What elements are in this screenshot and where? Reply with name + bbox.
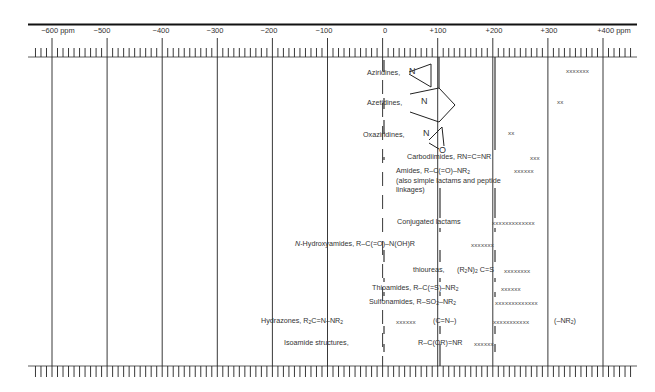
thioamides-range: xxxxxx xyxy=(501,284,521,293)
azetidines-range: xx xyxy=(557,97,564,106)
thioureas-label: thioureas, xyxy=(413,265,445,274)
oxaziridines-n: N xyxy=(423,129,430,138)
conjugated-lactams-label: Conjugated lactams xyxy=(397,217,461,226)
hydrazones-label: Hydrazones, R2C=N–NR2 xyxy=(261,316,343,327)
formula-part: C=S xyxy=(480,265,494,274)
aziridines-n: N xyxy=(409,67,416,76)
tick-label: +300 xyxy=(541,26,558,35)
hydroxyamides-label: N-Hydroxyamides, R–C(=O)–N(OH)R xyxy=(295,239,415,248)
subscript: 2 xyxy=(456,286,459,292)
conjugated-lactams-range: xxxxxxxxxxxxx xyxy=(492,218,535,227)
thioureas-range: xxxxxxxx xyxy=(504,266,530,275)
formula-part: Sulfonamides, R–SO xyxy=(369,297,436,306)
azetidines-label: Azetidines, xyxy=(367,98,402,107)
amides-note-line2: (also simple lactams and peptide xyxy=(396,176,501,185)
bottom-minor-ticks xyxy=(35,366,630,377)
tick-label: 0 xyxy=(383,26,387,35)
tick-label: −400 xyxy=(153,26,170,35)
azetidines-n: N xyxy=(421,97,428,106)
tick-label: +400 ppm xyxy=(597,26,631,35)
formula-part: (R xyxy=(457,265,465,274)
isoamides-label: Isoamide structures, xyxy=(284,338,349,347)
hydrazones-nr2-range: xxxxxxxxxxx xyxy=(493,317,529,326)
oxaziridines-range: xx xyxy=(508,128,515,137)
aziridines-range: xxxxxxx xyxy=(566,66,589,75)
formula-part: (–NR xyxy=(554,316,571,325)
amides-note-line3: linkages) xyxy=(396,185,425,194)
formula-part: N) xyxy=(467,265,475,274)
tick-label: −500 xyxy=(94,26,111,35)
top-minor-ticks xyxy=(35,38,630,57)
hydrazones-cn-label: (C=N–) xyxy=(433,316,456,325)
tick-label: +200 xyxy=(486,26,503,35)
sulfonamides-label: Sulfonamides, R–SO2–NR2 xyxy=(369,297,456,308)
formula-part: –NR xyxy=(439,297,453,306)
oxaziridines-label: Oxaziridines, xyxy=(363,130,405,139)
ppm-scale-diagram xyxy=(0,0,655,392)
subscript: 2 xyxy=(475,268,478,274)
carbodiimides-range: xxx xyxy=(530,153,540,162)
aziridines-label: Aziridines, xyxy=(367,68,400,77)
azetidine-structure-icon xyxy=(410,88,455,122)
formula-part: Hydrazones, R xyxy=(261,316,309,325)
subscript: 2 xyxy=(467,169,470,175)
amides-range: xxxxxx xyxy=(514,166,534,175)
thioamides-label: Thioamides, R–C(=S)–NR2 xyxy=(372,283,458,294)
subscript: 2 xyxy=(453,300,456,306)
tick-label: −300 xyxy=(207,26,224,35)
carbodiimides-label: Carbodiimides, RN=C=NR xyxy=(407,152,491,161)
subscript: 2 xyxy=(340,319,343,325)
thioureas-formula: (R2N)2 C=S xyxy=(457,265,494,276)
tick-label: −100 xyxy=(316,26,333,35)
tick-label: −200 xyxy=(261,26,278,35)
tick-label: −600 ppm xyxy=(41,26,75,35)
sulfonamides-range: xxxxxxxxxxxxx xyxy=(495,298,538,307)
formula-part: ) xyxy=(574,316,576,325)
hydroxyamides-range: xxxxxxx xyxy=(471,240,494,249)
hydroxyamides-text: -Hydroxyamides, R–C(=O)–N(OH)R xyxy=(300,239,415,248)
isoamides-formula: R–C(OR)=NR xyxy=(418,338,463,347)
amides-formula: Amides, R–C(=O)–NR xyxy=(396,166,467,175)
hydrazones-cn-range: xxxxxx xyxy=(396,317,416,326)
hydrazones-nr2-label: (–NR2) xyxy=(554,316,576,327)
isoamides-range: xxxxxx xyxy=(474,339,494,348)
formula-part: C=N–NR xyxy=(311,316,340,325)
formula-part: Thioamides, R–C(=S)–NR xyxy=(372,283,456,292)
tick-label: +100 xyxy=(430,26,447,35)
